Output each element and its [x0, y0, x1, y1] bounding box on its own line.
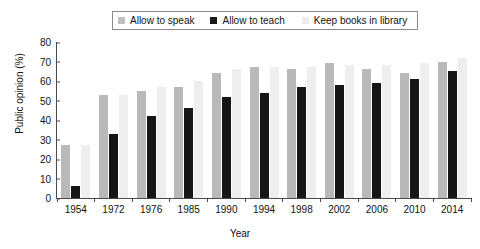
y-axis-tick-label: 40 [40, 115, 57, 126]
bar-allow-to-teach [260, 93, 269, 198]
x-axis-tick-label: 2014 [441, 204, 463, 215]
x-axis-tick-mark [471, 198, 472, 202]
bar-group [283, 42, 321, 198]
x-axis-tick-mark [245, 198, 246, 202]
bar-keep-books-in-library [345, 65, 354, 198]
bar-group [320, 42, 358, 198]
legend-item-keep-books-in-library: Keep books in library [302, 16, 407, 26]
bar-group [208, 42, 246, 198]
bar-keep-books-in-library [157, 87, 166, 198]
bar-group [132, 42, 170, 198]
bar-keep-books-in-library [232, 69, 241, 198]
bar-group [170, 42, 208, 198]
y-axis-tick-label: 10 [40, 173, 57, 184]
plot-area: 01020304050607080 1954197219761985199019… [56, 42, 471, 199]
x-axis-tick-label: 1976 [140, 204, 162, 215]
bar-group [396, 42, 434, 198]
bar-allow-to-speak [362, 69, 371, 198]
bar-group [433, 42, 471, 198]
bar-allow-to-teach [335, 85, 344, 198]
y-axis-tick-label: 30 [40, 134, 57, 145]
bar-allow-to-speak [99, 95, 108, 198]
very-light-gray-swatch-icon [302, 17, 309, 24]
x-axis-tick-label: 1990 [215, 204, 237, 215]
x-axis-tick-mark [57, 198, 58, 202]
bar-keep-books-in-library [119, 95, 128, 198]
y-axis-tick-label: 20 [40, 154, 57, 165]
y-axis-title: Public opinion (%) [14, 34, 25, 154]
bar-allow-to-teach [109, 134, 118, 198]
bar-allow-to-teach [222, 97, 231, 198]
y-axis-tick-label: 70 [40, 56, 57, 67]
bar-allow-to-teach [184, 108, 193, 198]
bar-allow-to-speak [400, 73, 409, 198]
bar-allow-to-teach [71, 186, 80, 198]
bar-keep-books-in-library [81, 145, 90, 198]
x-axis-tick-mark [94, 198, 95, 202]
bar-allow-to-speak [250, 67, 259, 198]
y-axis-tick-label: 50 [40, 95, 57, 106]
x-axis-tick-mark [169, 198, 170, 202]
y-axis-tick-label: 0 [45, 193, 57, 204]
black-swatch-icon [210, 17, 217, 24]
x-axis-tick-label: 1985 [178, 204, 200, 215]
x-axis-tick-label: 1998 [291, 204, 313, 215]
bar-keep-books-in-library [382, 65, 391, 198]
bar-groups [57, 42, 471, 198]
chart-container: Allow to speak Allow to teach Keep books… [0, 0, 480, 249]
x-axis-tick-label: 2002 [328, 204, 350, 215]
bar-allow-to-speak [174, 87, 183, 198]
bar-allow-to-speak [287, 69, 296, 198]
chart-legend: Allow to speak Allow to teach Keep books… [112, 11, 418, 30]
bar-group [57, 42, 95, 198]
y-axis-tick-label: 80 [40, 37, 57, 48]
light-gray-swatch-icon [118, 17, 125, 24]
legend-item-allow-to-speak: Allow to speak [118, 16, 194, 26]
bar-keep-books-in-library [458, 58, 467, 198]
x-axis-tick-mark [320, 198, 321, 202]
bar-allow-to-speak [61, 145, 70, 198]
bar-allow-to-teach [372, 83, 381, 198]
bar-allow-to-teach [410, 79, 419, 198]
bar-group [245, 42, 283, 198]
bar-group [95, 42, 133, 198]
x-axis-tick-label: 1994 [253, 204, 275, 215]
x-axis-title: Year [0, 228, 480, 239]
x-axis-tick-mark [395, 198, 396, 202]
x-axis-tick-mark [433, 198, 434, 202]
bar-keep-books-in-library [307, 67, 316, 198]
legend-item-allow-to-teach: Allow to teach [210, 16, 284, 26]
legend-label-allow-to-teach: Allow to teach [222, 16, 284, 26]
bar-allow-to-speak [212, 73, 221, 198]
bar-keep-books-in-library [194, 81, 203, 198]
bar-keep-books-in-library [420, 63, 429, 198]
legend-label-keep-books-in-library: Keep books in library [314, 16, 407, 26]
x-axis-tick-label: 1954 [65, 204, 87, 215]
bar-group [358, 42, 396, 198]
y-axis-tick-label: 60 [40, 76, 57, 87]
bar-allow-to-speak [137, 91, 146, 198]
x-axis-tick-mark [132, 198, 133, 202]
bar-allow-to-teach [297, 87, 306, 198]
bar-allow-to-speak [325, 63, 334, 198]
x-axis-tick-mark [358, 198, 359, 202]
x-axis-tick-label: 2006 [366, 204, 388, 215]
bar-keep-books-in-library [270, 67, 279, 198]
bar-allow-to-speak [438, 62, 447, 199]
x-axis-tick-label: 1972 [102, 204, 124, 215]
x-axis-tick-mark [282, 198, 283, 202]
bar-allow-to-teach [147, 116, 156, 198]
bar-allow-to-teach [448, 71, 457, 198]
legend-label-allow-to-speak: Allow to speak [130, 16, 194, 26]
x-axis-tick-mark [207, 198, 208, 202]
x-axis-tick-label: 2010 [403, 204, 425, 215]
